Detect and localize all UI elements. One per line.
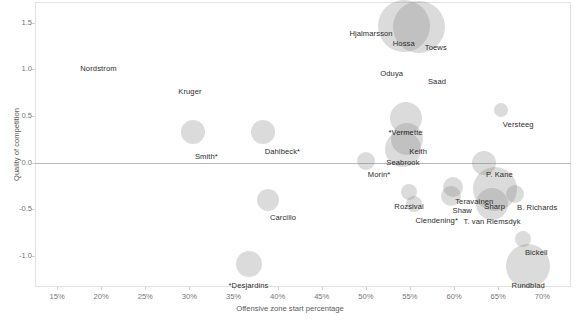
data-point-label: Toews <box>425 43 447 52</box>
data-point-label: Bickell <box>525 248 548 257</box>
x-tick-label-50pct: 50% <box>346 292 386 301</box>
data-point-label: Clendening* <box>416 216 458 225</box>
x-tick-label-30pct: 30% <box>169 292 209 301</box>
zero-line <box>35 163 571 164</box>
x-tick-mark <box>322 287 323 290</box>
y-tick-mark <box>32 23 35 24</box>
scatter-chart: 1.51.00.50.0-0.5-1.0 15%20%25%30%35%40%4… <box>0 0 580 321</box>
x-tick-label-20pct: 20% <box>81 292 121 301</box>
plot-area <box>35 2 571 287</box>
data-point-label: Rundblad <box>512 281 545 290</box>
data-point-label: Smith* <box>195 152 218 161</box>
x-tick-label-70pct: 70% <box>522 292 562 301</box>
x-tick-mark <box>366 287 367 290</box>
data-point-label: Shaw <box>453 206 472 215</box>
y-tick-label: 1.0 <box>2 64 32 73</box>
y-tick--0-5: -0.5 <box>0 204 32 214</box>
x-tick-label-65pct: 65% <box>478 292 518 301</box>
data-point-label: Nordstrom <box>80 64 116 73</box>
data-point-label: Dahlbeck* <box>265 147 301 156</box>
data-point-label: Morin* <box>368 170 391 179</box>
data-point-label: Hossa <box>393 39 415 48</box>
x-tick-label-25pct: 25% <box>125 292 165 301</box>
x-tick-mark <box>57 287 58 290</box>
y-tick-mark <box>32 116 35 117</box>
x-tick-mark <box>498 287 499 290</box>
x-tick-label-15pct: 15% <box>37 292 77 301</box>
data-point-label: Oduya <box>380 69 403 78</box>
data-point-label: Sharp <box>484 202 505 211</box>
y-tick-label: -0.5 <box>2 204 32 213</box>
x-tick-mark <box>454 287 455 290</box>
data-point-label: Saad <box>428 77 446 86</box>
y-tick-label: 1.5 <box>2 18 32 27</box>
x-tick-label-45pct: 45% <box>302 292 342 301</box>
x-tick-mark <box>189 287 190 290</box>
y-tick-1-0: 1.0 <box>0 64 32 74</box>
x-tick-mark <box>101 287 102 290</box>
y-tick-mark <box>32 69 35 70</box>
data-point-label: Keith <box>409 147 427 156</box>
data-point-label: B. Richards <box>517 203 557 212</box>
x-tick-label-35pct: 35% <box>214 292 254 301</box>
y-axis-label: Quality of competition <box>12 85 21 205</box>
x-tick-mark <box>410 287 411 290</box>
data-point-label: Seabrook <box>386 158 419 167</box>
y-tick--1-0: -1.0 <box>0 251 32 261</box>
x-tick-label-60pct: 60% <box>434 292 474 301</box>
data-point-label: Versteeg <box>503 120 534 129</box>
y-tick-1-5: 1.5 <box>0 18 32 28</box>
x-tick-mark <box>278 287 279 290</box>
data-point-label: Carcillo <box>270 213 296 222</box>
data-point-label: T. van Riemsdyk <box>463 217 520 226</box>
x-axis-label: Offensive zone start percentage <box>0 304 580 313</box>
y-tick-mark <box>32 209 35 210</box>
x-tick-label-40pct: 40% <box>258 292 298 301</box>
y-tick-mark <box>32 256 35 257</box>
y-tick-label: -1.0 <box>2 251 32 260</box>
data-point-label: Hjalmarsson <box>349 29 392 38</box>
data-point-label: *Desjardins <box>229 281 269 290</box>
data-point-label: *Vermette <box>388 128 422 137</box>
data-point-label: Kruger <box>178 87 201 96</box>
x-tick-label-55pct: 55% <box>390 292 430 301</box>
data-point-label: P. Kane <box>486 170 513 179</box>
data-point-label: Rozsival <box>394 202 424 211</box>
x-tick-mark <box>145 287 146 290</box>
